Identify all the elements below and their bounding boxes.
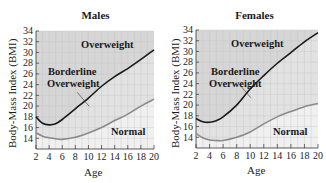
normal-region-label: Normal [273, 126, 307, 138]
males-chart-panel: Males 1416182022242628303234246810121416… [0, 0, 163, 183]
y-tick-label: 18 [183, 110, 193, 121]
y-axis-label: Body-Mass Index (BMI) [169, 39, 181, 148]
x-tick-label: 8 [73, 151, 78, 162]
y-axis-label: Body-Mass Index (BMI) [6, 39, 18, 148]
x-axis-label: Age [247, 164, 265, 176]
x-tick-label: 2 [34, 151, 39, 162]
y-tick-label: 24 [23, 79, 33, 90]
y-tick-label: 20 [183, 99, 193, 110]
overweight-region-label: Overweight [81, 39, 134, 51]
y-tick-label: 14 [183, 132, 193, 143]
females-chart-panel: Females 14161820222426283032342468101214… [163, 0, 326, 183]
x-tick-label: 16 [123, 151, 133, 162]
y-tick-label: 34 [183, 24, 193, 35]
normal-region-label: Normal [111, 126, 145, 138]
y-tick-label: 32 [23, 36, 33, 47]
x-tick-label: 6 [60, 151, 65, 162]
y-tick-label: 32 [183, 35, 193, 46]
x-tick-label: 10 [83, 151, 93, 162]
y-tick-label: 16 [23, 122, 33, 133]
y-tick-label: 22 [23, 90, 33, 101]
x-tick-label: 6 [221, 150, 226, 161]
y-tick-label: 18 [23, 111, 33, 122]
y-tick-label: 22 [183, 89, 193, 100]
y-tick-label: 16 [183, 121, 193, 132]
x-tick-label: 12 [259, 150, 269, 161]
x-tick-label: 8 [234, 150, 239, 161]
females-plot-area: 14161820222426283032342468101214161820 [163, 0, 326, 183]
overweight-region-label: Overweight [231, 38, 284, 50]
y-tick-label: 28 [183, 56, 193, 67]
x-tick-label: 14 [272, 150, 282, 161]
y-tick-label: 30 [183, 46, 193, 57]
y-tick-label: 20 [23, 100, 33, 111]
y-tick-label: 24 [183, 78, 193, 89]
x-tick-label: 4 [47, 151, 52, 162]
males-plot-area: 14161820222426283032342468101214161820 [0, 0, 163, 183]
y-tick-label: 26 [183, 67, 193, 78]
x-tick-label: 20 [313, 150, 323, 161]
y-tick-label: 14 [23, 133, 33, 144]
x-tick-label: 18 [299, 150, 309, 161]
y-tick-label: 26 [23, 68, 33, 79]
x-tick-label: 12 [97, 151, 107, 162]
y-tick-label: 30 [23, 47, 33, 58]
x-tick-label: 16 [286, 150, 296, 161]
x-tick-label: 20 [149, 151, 159, 162]
borderline-region-label-line2: Overweight [209, 78, 262, 90]
y-tick-label: 28 [23, 57, 33, 68]
x-axis-label: Age [84, 166, 102, 178]
x-tick-label: 14 [110, 151, 120, 162]
borderline-region-label-line1: Borderline [211, 66, 259, 78]
borderline-region-label-line2: Overweight [47, 78, 100, 90]
borderline-region-label-line1: Borderline [48, 66, 96, 78]
y-tick-label: 34 [23, 25, 33, 36]
x-tick-label: 10 [245, 150, 255, 161]
x-tick-label: 18 [136, 151, 146, 162]
x-tick-label: 2 [194, 150, 199, 161]
x-tick-label: 4 [207, 150, 212, 161]
